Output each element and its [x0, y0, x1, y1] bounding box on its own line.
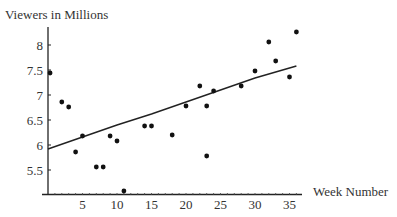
y-tick-label: 6 [37, 138, 44, 153]
data-point [170, 133, 175, 138]
data-point [48, 71, 53, 76]
y-axis-label: Viewers in Millions [5, 7, 108, 22]
data-point [80, 134, 85, 139]
data-points [48, 30, 299, 194]
data-point [273, 59, 278, 64]
x-tick-label: 20 [180, 197, 193, 212]
data-point [108, 134, 113, 139]
x-tick-label: 10 [111, 197, 124, 212]
data-point [197, 84, 202, 89]
data-point [239, 84, 244, 89]
data-point [253, 69, 258, 74]
data-point [184, 104, 189, 109]
x-ticks: 5101520253035 [55, 193, 297, 212]
y-tick-label: 7.5 [27, 63, 43, 78]
y-tick-label: 8 [37, 38, 44, 53]
x-tick-label: 30 [249, 197, 262, 212]
x-tick-label: 15 [145, 197, 158, 212]
data-point [287, 75, 292, 80]
x-tick-label: 5 [79, 197, 86, 212]
data-point [149, 124, 154, 129]
x-tick-label: 25 [214, 197, 227, 212]
data-point [122, 189, 127, 194]
data-point [204, 104, 209, 109]
x-axis-label: Week Number [313, 184, 389, 199]
data-point [101, 165, 106, 170]
data-point [73, 150, 78, 155]
y-tick-label: 6.5 [27, 113, 43, 128]
data-point [94, 165, 99, 170]
x-tick-label: 35 [283, 197, 296, 212]
y-tick-label: 7 [37, 88, 44, 103]
data-point [66, 105, 71, 110]
data-point [266, 40, 271, 45]
data-point [59, 100, 64, 105]
y-tick-label: 5.5 [27, 163, 43, 178]
data-point [211, 89, 216, 94]
data-point [115, 139, 120, 144]
scatter-chart: Viewers in Millions Week Number 5.566.57… [0, 0, 397, 217]
data-point [294, 30, 299, 35]
data-point [142, 124, 147, 129]
data-point [204, 154, 209, 159]
